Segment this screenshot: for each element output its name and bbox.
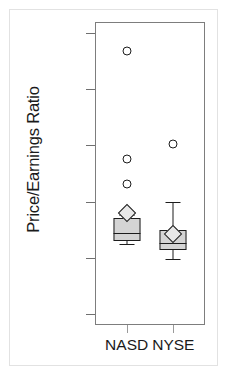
boxplot-group-nyse: [0, 0, 227, 375]
whisker-cap-lower: [166, 259, 181, 260]
whisker-lower: [173, 250, 174, 259]
outlier-point: [169, 140, 178, 149]
median-line: [160, 243, 187, 244]
boxplot-figure: -50050100150200NASDNYSE Price/Earnings R…: [0, 0, 227, 375]
whisker-cap-upper: [166, 202, 181, 203]
